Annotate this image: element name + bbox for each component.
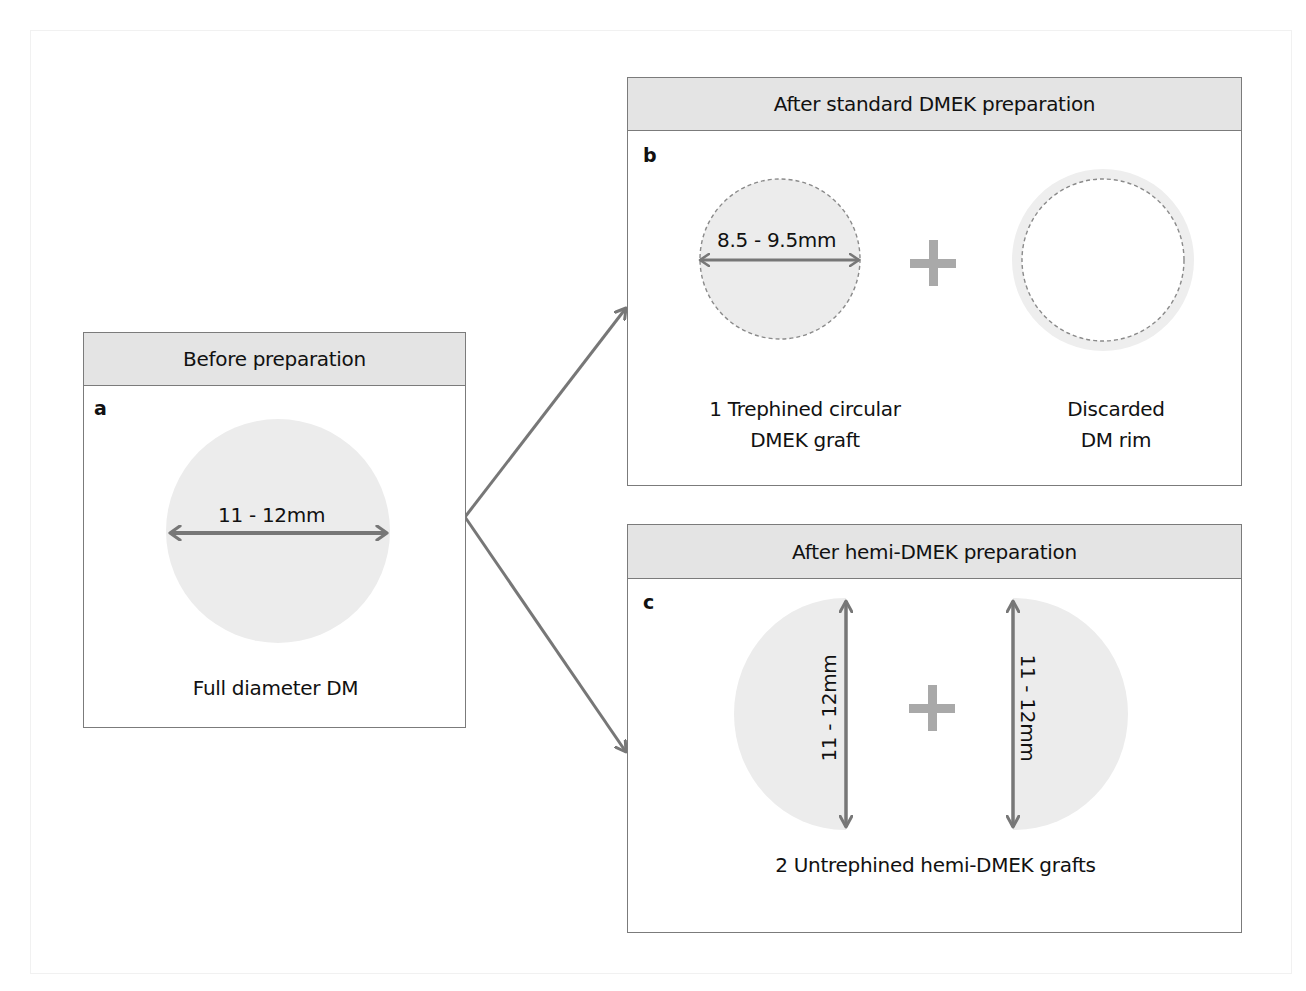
panel-c: After hemi-DMEK preparation c 11 - 12mm … — [627, 524, 1242, 933]
dimension-label: 11 - 12mm — [218, 503, 325, 527]
caption-line: Discarded — [1016, 394, 1216, 425]
arrow-icon — [465, 517, 626, 752]
panel-b: After standard DMEK preparation b 8.5 - … — [627, 77, 1242, 486]
plus-icon — [909, 685, 955, 731]
arrow-icon — [465, 308, 626, 517]
panel-caption: 2 Untrephined hemi-DMEK grafts — [628, 850, 1243, 881]
panel-caption: Full diameter DM — [84, 673, 467, 704]
plus-icon — [910, 240, 956, 286]
graft-caption: 1 Trephined circular DMEK graft — [690, 394, 920, 456]
panel-a: Before preparation a 11 - 12mm Full diam… — [83, 332, 466, 728]
caption-line: 1 Trephined circular — [690, 394, 920, 425]
full-diameter-disc — [84, 333, 467, 729]
caption-line: DMEK graft — [690, 425, 920, 456]
discarded-rim — [1012, 169, 1194, 351]
dimension-label-left: 11 - 12mm — [817, 653, 841, 763]
caption-line: DM rim — [1016, 425, 1216, 456]
rim-caption: Discarded DM rim — [1016, 394, 1216, 456]
dimension-label: 8.5 - 9.5mm — [717, 228, 836, 252]
dimension-label-right: 11 - 12mm — [1016, 653, 1040, 763]
